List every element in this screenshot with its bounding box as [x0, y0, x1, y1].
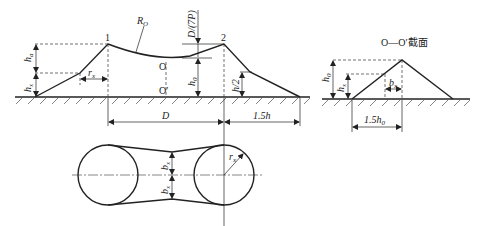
- d-7p-label: D/(7P): [186, 10, 198, 39]
- lightning-protection-diagram: ha hx rx 1 2 O O′ RO D/(7P) h0 h/2 D 1.5…: [0, 0, 484, 226]
- rx-label: rx: [88, 67, 96, 80]
- plan-bx-bottom-label: bx: [159, 185, 172, 194]
- section-hx-label: hx: [335, 83, 348, 92]
- point-1-label: 1: [105, 32, 110, 43]
- one-five-h-label: 1.5h: [253, 110, 271, 121]
- section-ground-hatching: [322, 100, 470, 106]
- h0-label: h0: [186, 77, 199, 86]
- section-view: O—O′截面 h0 hx bx 1.5h0: [320, 36, 470, 132]
- plan-rx-label: rx: [229, 151, 237, 164]
- section-title: O—O′截面: [381, 36, 428, 48]
- point-o-prime-label: O′: [159, 85, 168, 96]
- section-base-label: 1.5h0: [364, 114, 386, 127]
- section-h0-label: h0: [320, 73, 333, 82]
- section-triangle: [352, 60, 453, 99]
- plan-bx-top-label: bx: [159, 161, 172, 170]
- point-2-label: 2: [221, 32, 226, 43]
- d-label: D: [161, 110, 170, 121]
- plan-view: bx bx rx: [72, 145, 262, 205]
- h-half-label: h/2: [230, 79, 241, 92]
- ha-label: ha: [22, 53, 35, 62]
- point-o-label: O: [159, 61, 166, 72]
- ground-hatching: [16, 98, 310, 104]
- r0-label: RO: [136, 15, 148, 28]
- hx-label: hx: [22, 83, 35, 92]
- section-bx-label: bx: [389, 77, 398, 90]
